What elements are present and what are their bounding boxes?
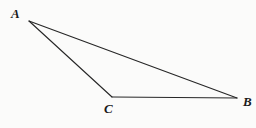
edge-a-c xyxy=(29,21,112,97)
edge-c-b xyxy=(112,97,237,98)
triangle-diagram xyxy=(0,0,256,128)
edge-a-b xyxy=(29,21,237,98)
vertex-label-c: C xyxy=(104,102,113,115)
geometry-figure: A B C xyxy=(0,0,256,128)
vertex-label-a: A xyxy=(11,7,20,20)
vertex-label-b: B xyxy=(243,95,252,108)
